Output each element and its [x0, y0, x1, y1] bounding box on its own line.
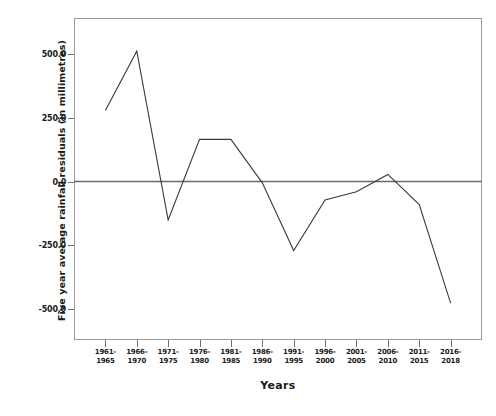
x-tick-mark — [325, 340, 326, 347]
y-tick-label: 500.0 — [6, 49, 66, 58]
x-tick-mark — [168, 340, 169, 347]
x-tick-mark — [356, 340, 357, 347]
rainfall-residual-series — [105, 51, 450, 303]
x-tick-mark — [231, 340, 232, 347]
x-axis-title: Years — [74, 379, 482, 392]
x-tick-mark — [262, 340, 263, 347]
x-tick-mark — [419, 340, 420, 347]
figure-caption — [8, 404, 488, 416]
y-tick-label: -500.0 — [6, 305, 66, 314]
x-tick-label-line: 2016- — [429, 348, 473, 357]
y-tick-label: 0.0 — [6, 177, 66, 186]
x-tick-label-line: 2018 — [429, 357, 473, 366]
x-tick-mark — [137, 340, 138, 347]
x-tick-mark — [294, 340, 295, 347]
series-canvas — [74, 18, 482, 340]
rainfall-residuals-line-chart: Five year average rainfall residuals (in… — [0, 0, 496, 416]
x-tick-mark — [200, 340, 201, 347]
x-tick-mark — [451, 340, 452, 347]
x-tick-mark — [105, 340, 106, 347]
x-tick-label: 2016-2018 — [429, 348, 473, 366]
x-tick-mark — [388, 340, 389, 347]
y-tick-label: 250.0 — [6, 113, 66, 122]
y-tick-label: -250.0 — [6, 241, 66, 250]
